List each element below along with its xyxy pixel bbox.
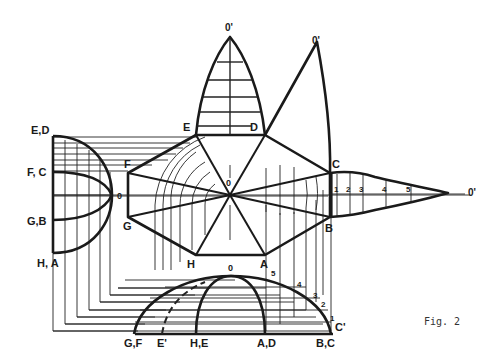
label-plan-a: A <box>260 258 268 270</box>
gore-div-3: 3 <box>359 185 364 194</box>
label-front-o: 0 <box>228 263 233 273</box>
label-plan-e: E <box>183 121 190 133</box>
front-div-1: 1 <box>330 314 335 323</box>
label-ad: A,D <box>257 337 276 349</box>
label-fc: F, C <box>27 166 47 178</box>
front-div-5: 5 <box>271 269 276 278</box>
side-elevation-labels: E,D F, C G,B H, A 0 <box>27 124 122 269</box>
octagonal-dome-development-diagram: E,D F, C G,B H, A 0 E D F C G B H A 0 0'… <box>0 0 499 364</box>
label-plan-center: 0 <box>226 178 231 188</box>
label-plan-f: F <box>124 158 131 170</box>
label-ed: E,D <box>31 124 49 136</box>
label-apex-right: 0' <box>468 187 476 198</box>
front-div-2: 2 <box>321 300 326 309</box>
label-plan-d: D <box>250 121 258 133</box>
label-apex-top: 0' <box>225 22 233 33</box>
gore-div-5: 5 <box>406 185 411 194</box>
label-apex-top-right: 0' <box>312 35 320 46</box>
front-div-3: 3 <box>313 291 318 300</box>
gore-right <box>330 172 465 217</box>
label-bc: B,C <box>316 337 335 349</box>
label-e-prime: E' <box>157 337 167 349</box>
gore-div-1: 1 <box>334 185 339 194</box>
gore-div-2: 2 <box>346 185 351 194</box>
label-gb: G,B <box>27 215 47 227</box>
label-gf: G,F <box>124 337 143 349</box>
label-side-o: 0 <box>117 191 122 201</box>
label-plan-b: B <box>325 222 333 234</box>
label-ha: H, A <box>37 257 59 269</box>
label-plan-h: H <box>187 258 195 270</box>
label-plan-g: G <box>123 220 132 232</box>
figure-caption: Fig. 2 <box>424 316 460 327</box>
gore-div-4: 4 <box>382 185 387 194</box>
front-elevation <box>134 276 333 334</box>
label-he: H,E <box>190 337 208 349</box>
front-div-4: 4 <box>297 280 302 289</box>
label-c-prime: C' <box>335 321 346 333</box>
label-plan-c: C <box>332 158 340 170</box>
